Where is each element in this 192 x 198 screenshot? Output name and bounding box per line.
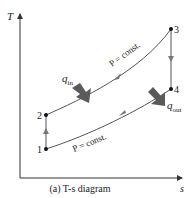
figure-caption: (a) T-s diagram bbox=[49, 183, 110, 195]
state-label-4: 4 bbox=[174, 84, 179, 95]
p-const-label-bottom: P = const. bbox=[71, 131, 108, 154]
flow-arrow-1-2-icon bbox=[43, 128, 49, 134]
process-4-1 bbox=[46, 89, 171, 149]
ts-diagram-canvas: T s P = const. P = const. qin qout 1 bbox=[0, 0, 192, 198]
state-label-3: 3 bbox=[174, 24, 179, 35]
state-point-4 bbox=[169, 87, 173, 91]
heat-in-arrow-icon bbox=[72, 83, 91, 103]
flow-arrow-4-1-icon bbox=[119, 110, 126, 116]
heat-in-label: qin bbox=[62, 72, 73, 87]
state-label-2: 2 bbox=[37, 110, 42, 121]
state-point-3 bbox=[169, 27, 173, 31]
heat-out-label: qout bbox=[167, 99, 182, 114]
ts-diagram-figure: T s P = const. P = const. qin qout 1 bbox=[0, 0, 192, 198]
flow-arrow-2-3-icon bbox=[114, 73, 121, 80]
heat-out-arrow-icon bbox=[148, 87, 165, 106]
state-label-1: 1 bbox=[37, 144, 42, 155]
s-axis-label: s bbox=[180, 183, 184, 194]
state-point-1 bbox=[44, 147, 48, 151]
state-point-2 bbox=[44, 113, 48, 117]
t-axis-label: T bbox=[7, 10, 14, 22]
flow-arrow-3-4-icon bbox=[168, 56, 174, 62]
